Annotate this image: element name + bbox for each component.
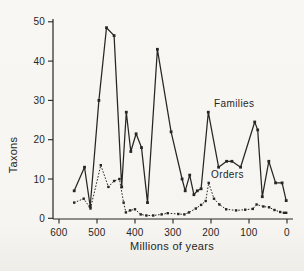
orders-marker [252, 208, 254, 210]
orders-marker [73, 201, 75, 203]
orders-marker [218, 203, 220, 205]
data-series [73, 26, 288, 216]
y-axis-label: Taxons [7, 136, 19, 173]
x-axis-label: Millions of years [130, 240, 214, 252]
y-tick-label: 50 [33, 16, 45, 27]
orders-marker [285, 212, 287, 214]
orders-marker [213, 198, 215, 200]
families-marker [253, 121, 256, 124]
families-marker [261, 195, 264, 198]
axes: 010203040506005004003002001000 [33, 16, 293, 238]
families-marker [113, 34, 116, 37]
families-marker [281, 182, 284, 185]
y-tick-label: 0 [39, 213, 45, 224]
orders-marker [125, 211, 127, 213]
families-marker [73, 189, 76, 192]
scanned-figure: Taxons Millions of years 010203040506005… [0, 0, 304, 271]
families-marker [98, 99, 101, 102]
orders-marker [89, 207, 91, 209]
families-marker [285, 199, 288, 202]
orders-marker [152, 214, 154, 216]
x-tick-label: 300 [164, 227, 182, 238]
families-marker [193, 193, 196, 196]
orders-marker [167, 212, 169, 214]
x-tick-label: 600 [50, 227, 68, 238]
families-marker [256, 129, 259, 132]
orders-marker [208, 182, 210, 184]
families-marker [140, 146, 143, 149]
orders-marker [244, 209, 246, 211]
orders-marker [200, 204, 202, 206]
orders-series-label: Orders [211, 169, 244, 180]
families-marker [239, 166, 242, 169]
families-marker [170, 130, 173, 133]
families-marker [225, 160, 228, 163]
families-marker [196, 189, 199, 192]
orders-marker [279, 211, 281, 213]
families-marker [181, 178, 184, 181]
families-marker [231, 160, 234, 163]
orders-marker [283, 212, 285, 214]
orders-marker [129, 209, 131, 211]
orders-marker [107, 186, 109, 188]
orders-marker [134, 208, 136, 210]
x-tick-label: 500 [88, 227, 106, 238]
y-tick-label: 10 [33, 174, 45, 185]
orders-marker [225, 208, 227, 210]
families-series-label: Families [214, 98, 254, 109]
orders-marker [100, 164, 102, 166]
taxa-diversity-chart: Taxons Millions of years 010203040506005… [0, 0, 304, 271]
families-marker [274, 182, 277, 185]
orders-marker [188, 211, 190, 213]
orders-marker [113, 180, 115, 182]
x-tick-label: 400 [126, 227, 144, 238]
families-marker [83, 166, 86, 169]
orders-marker [205, 200, 207, 202]
families-marker [135, 132, 138, 135]
x-tick-label: 200 [202, 227, 220, 238]
orders-marker [183, 213, 185, 215]
x-tick-label: 100 [240, 227, 258, 238]
families-marker [188, 174, 191, 177]
orders-marker [195, 207, 197, 209]
families-marker [125, 111, 128, 114]
orders-marker [160, 213, 162, 215]
orders-marker [83, 198, 85, 200]
orders-marker [262, 205, 264, 207]
families-marker [267, 160, 270, 163]
y-tick-label: 20 [33, 134, 45, 145]
orders-marker [145, 214, 147, 216]
orders-marker [235, 209, 237, 211]
families-marker [184, 189, 187, 192]
orders-marker [177, 213, 179, 215]
orders-marker [273, 209, 275, 211]
orders-marker [122, 201, 124, 203]
x-tick-label: 0 [284, 227, 290, 238]
orders-marker [118, 178, 120, 180]
families-line [74, 28, 286, 207]
families-marker [156, 48, 159, 51]
orders-marker [255, 203, 257, 205]
y-tick-label: 30 [33, 95, 45, 106]
families-marker [207, 111, 210, 114]
y-tick-label: 40 [33, 56, 45, 67]
families-marker [105, 26, 108, 29]
families-marker [200, 187, 203, 190]
families-marker [129, 150, 132, 153]
orders-marker [140, 213, 142, 215]
families-marker [217, 166, 220, 169]
families-marker [146, 201, 149, 204]
orders-marker [268, 206, 270, 208]
